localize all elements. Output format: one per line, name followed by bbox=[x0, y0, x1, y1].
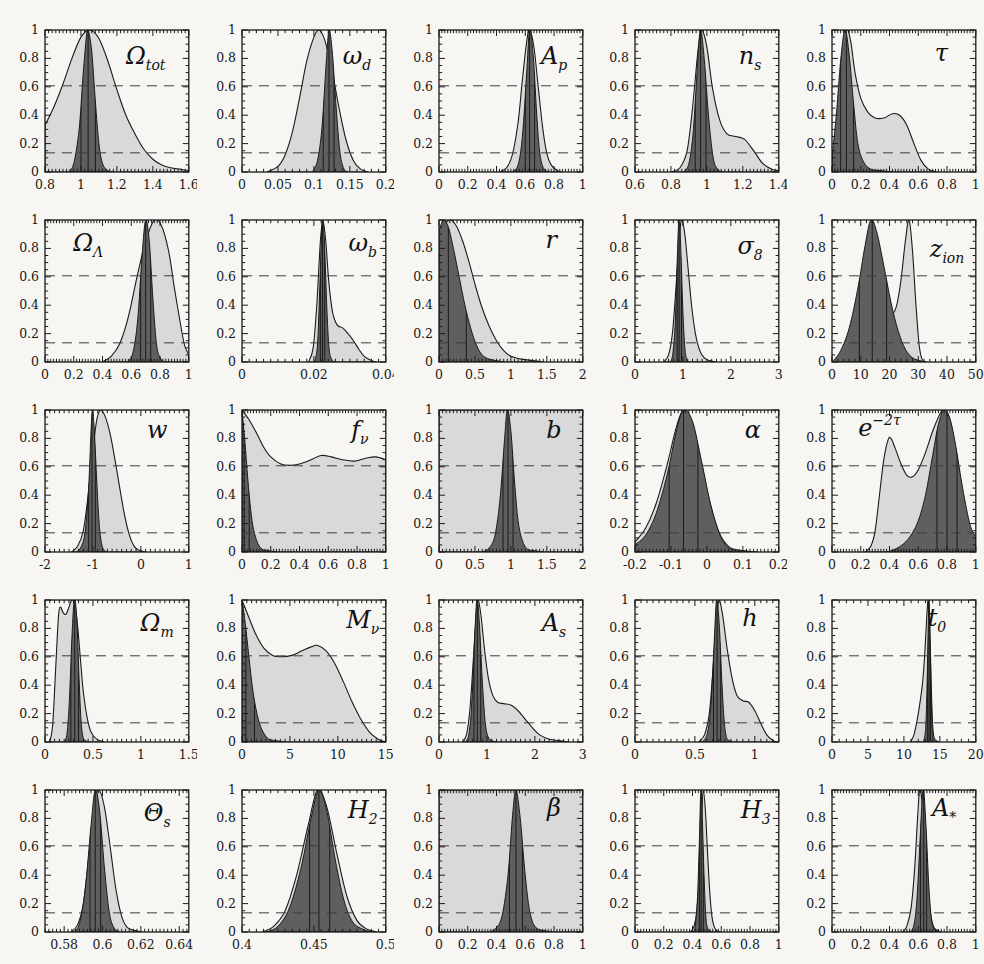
x-tick-label: 0.2 bbox=[457, 177, 477, 192]
panel-omega-d: 00.050.10.150.200.20.40.60.81ωd bbox=[197, 14, 394, 204]
y-tick-label: 0.2 bbox=[413, 706, 433, 721]
panel-t-0: 0510152000.20.40.60.81t0 bbox=[787, 584, 984, 774]
curves-group bbox=[50, 598, 105, 742]
y-tick-label: 0 bbox=[621, 924, 629, 939]
y-tick-label: 0.4 bbox=[413, 487, 433, 502]
panel-title-e-minus-2tau: e−2τ bbox=[858, 412, 901, 442]
x-tick-label: 2 bbox=[578, 367, 586, 382]
panel-title-a-p: Ap bbox=[538, 42, 566, 73]
y-tick-label: 1 bbox=[31, 592, 39, 607]
x-tick-label: 1 bbox=[507, 367, 515, 382]
density-plot-omega-b: 00.020.0400.20.40.60.81ωb bbox=[197, 204, 394, 394]
x-tick-label: 0.8 bbox=[544, 177, 564, 192]
y-tick-label: 0.2 bbox=[216, 706, 236, 721]
x-tick-label: 0.8 bbox=[740, 937, 760, 952]
y-tick-label: 0.8 bbox=[19, 240, 39, 255]
density-plot-omega-d: 00.050.10.150.200.20.40.60.81ωd bbox=[197, 14, 394, 204]
y-tick-label: 0 bbox=[621, 544, 629, 559]
panel-n-s: 0.60.811.21.400.20.40.60.81ns bbox=[590, 14, 787, 204]
y-tick-label: 0.2 bbox=[610, 326, 630, 341]
x-tick-label: 0 bbox=[238, 367, 246, 382]
y-tick-label: 0.2 bbox=[19, 326, 39, 341]
y-tick-label: 1 bbox=[31, 402, 39, 417]
y-tick-label: 0.8 bbox=[216, 240, 236, 255]
panel-tau: 00.20.40.60.8100.20.40.60.81τ bbox=[787, 14, 984, 204]
y-tick-label: 0 bbox=[621, 734, 629, 749]
x-tick-label: 0 bbox=[435, 177, 443, 192]
y-tick-label: 0.6 bbox=[610, 839, 630, 854]
x-tick-label: 0.2 bbox=[851, 937, 871, 952]
x-tick-label: 0.64 bbox=[165, 937, 193, 952]
panel-m-nu: 05101500.20.40.60.81Mν bbox=[197, 584, 394, 774]
y-tick-label: 0.8 bbox=[413, 810, 433, 825]
x-tick-label: 0.8 bbox=[150, 367, 170, 382]
panel-sigma-8: 012300.20.40.60.81σ8 bbox=[590, 204, 787, 394]
panel-title-tau: τ bbox=[935, 39, 949, 67]
x-tick-label: 0.8 bbox=[937, 177, 957, 192]
panel-title-sigma-8: σ8 bbox=[738, 232, 763, 263]
y-tick-label: 0.4 bbox=[216, 677, 236, 692]
y-tick-label: 0.4 bbox=[610, 107, 630, 122]
x-tick-label: 0.8 bbox=[35, 177, 55, 192]
y-tick-label: 0.6 bbox=[216, 649, 236, 664]
x-tick-label: 0 bbox=[631, 937, 639, 952]
x-tick-label: 0.6 bbox=[712, 937, 732, 952]
y-tick-label: 0.6 bbox=[413, 269, 433, 284]
y-tick-label: 0.6 bbox=[806, 79, 826, 94]
x-tick-label: 0.58 bbox=[50, 937, 78, 952]
y-tick-label: 0 bbox=[31, 924, 39, 939]
y-tick-label: 0.6 bbox=[806, 269, 826, 284]
y-tick-label: 0.8 bbox=[216, 50, 236, 65]
x-tick-label: 0.4 bbox=[486, 937, 506, 952]
x-tick-label: 1 bbox=[972, 557, 980, 572]
y-tick-label: 0.4 bbox=[806, 297, 826, 312]
x-tick-label: 0.1 bbox=[733, 557, 753, 572]
y-tick-label: 0 bbox=[228, 924, 236, 939]
curves-group bbox=[671, 30, 779, 172]
curves-group bbox=[691, 790, 722, 932]
y-tick-label: 0.2 bbox=[216, 516, 236, 531]
density-plot-r: 00.511.5200.20.40.60.81r bbox=[394, 204, 591, 394]
x-tick-label: 10 bbox=[853, 367, 869, 382]
x-tick-label: 0 bbox=[238, 177, 246, 192]
y-tick-label: 0.4 bbox=[610, 297, 630, 312]
x-tick-label: 2 bbox=[530, 747, 538, 762]
x-tick-label: 0 bbox=[435, 747, 443, 762]
x-tick-label: 0 bbox=[435, 367, 443, 382]
x-tick-label: 0.05 bbox=[264, 177, 292, 192]
y-tick-label: 1 bbox=[818, 592, 826, 607]
panel-a-star: 00.20.40.60.8100.20.40.60.81A* bbox=[787, 774, 984, 964]
y-tick-label: 0 bbox=[31, 734, 39, 749]
x-tick-label: 1.5 bbox=[537, 557, 557, 572]
panel-omega-b: 00.020.0400.20.40.60.81ωb bbox=[197, 204, 394, 394]
y-tick-label: 1 bbox=[425, 782, 433, 797]
panel-title-w: w bbox=[147, 416, 168, 444]
y-tick-label: 0.8 bbox=[806, 430, 826, 445]
y-tick-label: 0.8 bbox=[610, 240, 630, 255]
x-tick-label: -0.1 bbox=[659, 557, 683, 572]
x-tick-label: 1 bbox=[578, 937, 586, 952]
axis-ticks bbox=[832, 600, 976, 742]
x-tick-label: 0 bbox=[41, 747, 49, 762]
x-tick-label: 0 bbox=[703, 557, 711, 572]
curves-group bbox=[664, 217, 717, 362]
x-tick-label: 1 bbox=[703, 177, 711, 192]
y-tick-label: 0.6 bbox=[806, 649, 826, 664]
y-tick-label: 1 bbox=[31, 212, 39, 227]
x-tick-label: -1 bbox=[87, 557, 99, 572]
x-tick-label: 1.5 bbox=[537, 367, 557, 382]
y-tick-label: 0.8 bbox=[19, 620, 39, 635]
y-tick-label: 0.4 bbox=[413, 677, 433, 692]
x-tick-label: 0.5 bbox=[465, 557, 485, 572]
y-tick-label: 1 bbox=[31, 782, 39, 797]
y-tick-label: 0.2 bbox=[610, 516, 630, 531]
y-tick-label: 0.8 bbox=[806, 620, 826, 635]
y-tick-label: 0.4 bbox=[413, 867, 433, 882]
panel-title-omega-d: ωd bbox=[343, 42, 372, 73]
y-tick-label: 0.8 bbox=[610, 430, 630, 445]
y-tick-label: 0.6 bbox=[610, 269, 630, 284]
density-plot-f-nu: 00.20.40.60.8100.20.40.60.81fν bbox=[197, 394, 394, 584]
x-tick-label: 50 bbox=[968, 367, 984, 382]
x-tick-label: 0 bbox=[631, 367, 639, 382]
x-tick-label: 40 bbox=[939, 367, 955, 382]
